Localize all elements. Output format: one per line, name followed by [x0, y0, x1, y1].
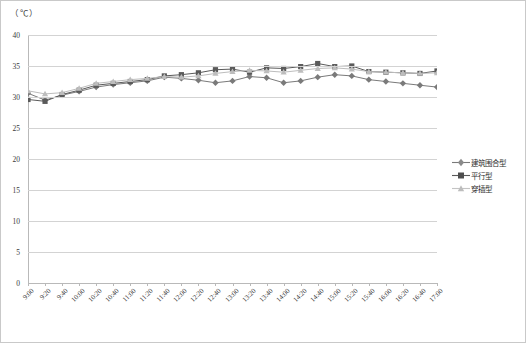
x-tick — [369, 283, 370, 286]
data-point-marker — [297, 78, 303, 84]
x-tick — [164, 283, 165, 286]
legend-label-1: 平行型 — [471, 170, 492, 181]
y-tick-label: 30 — [0, 93, 20, 102]
x-tick — [147, 283, 148, 286]
y-gridline — [28, 128, 437, 129]
x-tick — [335, 283, 336, 286]
y-tick-label: 10 — [0, 217, 20, 226]
y-gridline — [28, 159, 437, 160]
legend-label-0: 建筑围合型 — [471, 157, 506, 168]
x-tick — [250, 283, 251, 286]
x-tick — [181, 283, 182, 286]
data-point-marker — [400, 80, 406, 86]
y-tick-label: 25 — [0, 124, 20, 133]
y-tick-label: 40 — [0, 31, 20, 40]
x-tick — [28, 283, 29, 286]
x-tick — [96, 283, 97, 286]
y-gridline — [28, 35, 437, 36]
data-point-marker — [263, 75, 269, 81]
x-tick — [403, 283, 404, 286]
y-axis-unit-label: （℃） — [10, 6, 39, 18]
x-tick — [130, 283, 131, 286]
x-tick — [267, 283, 268, 286]
y-tick-label: 0 — [0, 279, 20, 288]
data-point-marker — [280, 80, 286, 86]
legend-marker-diamond-icon — [452, 157, 470, 168]
data-point-marker — [349, 73, 355, 79]
chart-legend: 建筑围合型 平行型 穿插型 — [452, 156, 520, 195]
y-gridline — [28, 66, 437, 67]
data-point-marker — [229, 78, 235, 84]
legend-item-2[interactable]: 穿插型 — [452, 182, 520, 194]
data-point-marker — [366, 76, 372, 82]
plot-area — [28, 35, 437, 283]
y-tick-label: 20 — [0, 155, 20, 164]
legend-marker-square-icon — [452, 170, 470, 181]
legend-label-2: 穿插型 — [471, 183, 492, 194]
y-gridline — [28, 252, 437, 253]
x-tick — [386, 283, 387, 286]
x-tick — [420, 283, 421, 286]
data-point-marker — [332, 71, 338, 77]
data-point-marker — [42, 99, 47, 104]
x-tick — [233, 283, 234, 286]
y-tick-label: 15 — [0, 186, 20, 195]
y-tick-label: 35 — [0, 62, 20, 71]
x-tick — [301, 283, 302, 286]
data-point-marker — [434, 84, 437, 90]
legend-item-0[interactable]: 建筑围合型 — [452, 156, 520, 168]
data-point-marker — [417, 82, 423, 88]
data-point-marker — [315, 74, 321, 80]
x-tick — [79, 283, 80, 286]
legend-item-1[interactable]: 平行型 — [452, 169, 520, 181]
y-gridline — [28, 97, 437, 98]
data-point-marker — [383, 78, 389, 84]
x-tick — [215, 283, 216, 286]
y-gridline — [28, 221, 437, 222]
x-tick — [62, 283, 63, 286]
x-tick — [198, 283, 199, 286]
legend-marker-triangle-icon — [452, 183, 470, 194]
x-tick — [318, 283, 319, 286]
data-point-marker — [28, 88, 31, 94]
x-tick — [113, 283, 114, 286]
y-gridline — [28, 190, 437, 191]
y-tick-label: 5 — [0, 248, 20, 257]
x-tick — [352, 283, 353, 286]
x-tick — [45, 283, 46, 286]
data-point-marker — [212, 80, 218, 86]
x-tick — [437, 283, 438, 286]
x-tick — [284, 283, 285, 286]
